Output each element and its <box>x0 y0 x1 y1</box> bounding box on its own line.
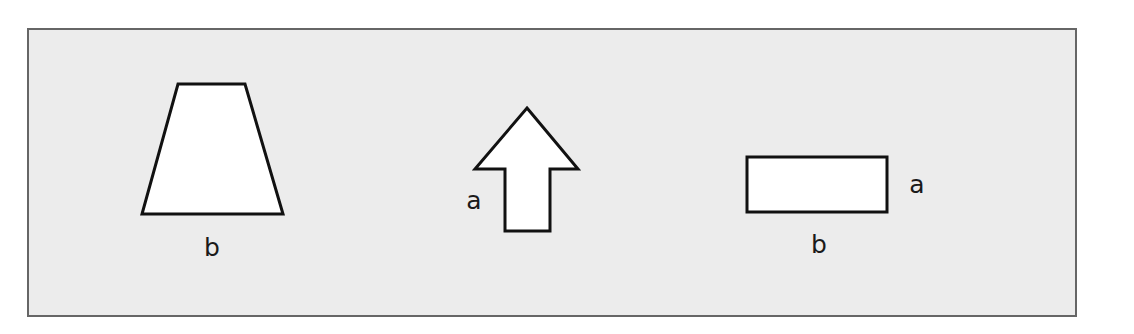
rectangle-base-label: b <box>811 230 827 259</box>
rectangle-height-label: a <box>909 170 924 199</box>
rectangle-shape: a b <box>747 157 925 259</box>
arrow-height-label: a <box>466 186 481 215</box>
trapezoid-shape: b <box>142 84 283 262</box>
trapezoid-base-label: b <box>204 233 220 262</box>
arrow-up-shape: a <box>466 108 578 231</box>
shapes-diagram: b a a b <box>0 0 1134 334</box>
